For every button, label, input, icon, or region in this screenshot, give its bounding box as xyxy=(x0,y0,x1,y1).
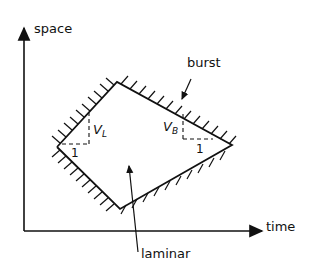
burst-pointer-arrow xyxy=(182,79,191,99)
diagram-canvas: space time xyxy=(0,0,319,278)
slope-left-rise-label: VL xyxy=(93,122,107,139)
slope-left-run-label: 1 xyxy=(71,146,79,160)
hatching-lower-left xyxy=(52,150,114,211)
slope-right-rise-label: VB xyxy=(163,119,178,136)
burst-label: burst xyxy=(187,55,221,70)
hatching-lower-right xyxy=(121,151,225,214)
axes xyxy=(24,28,262,231)
slope-right-run-label: 1 xyxy=(196,142,204,156)
y-axis-label: space xyxy=(34,21,72,36)
laminar-pointer-arrow xyxy=(129,166,138,252)
x-axis-label: time xyxy=(266,219,295,234)
hatching-upper-right xyxy=(121,76,236,144)
laminar-region-boundary xyxy=(57,82,232,209)
laminar-label: laminar xyxy=(141,246,191,261)
